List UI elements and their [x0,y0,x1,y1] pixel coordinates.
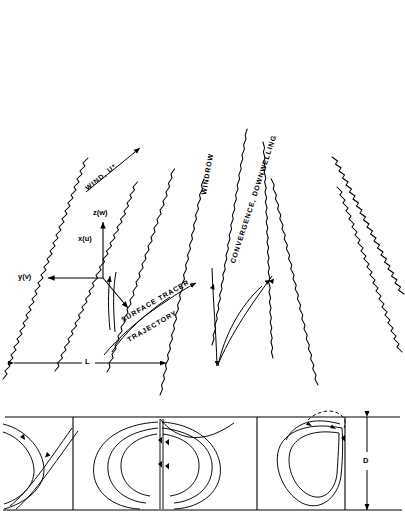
axis-y-label: y(v) [18,272,31,281]
depth-label-D: D [363,456,368,465]
convergence-spindle [212,268,272,366]
near-axis-streamline [109,272,117,332]
cell-right-dashed-top [308,411,345,428]
axis-z-label: z(w) [93,208,108,217]
axis-x-label: x(u) [78,234,92,243]
windrow-streak-1 [3,158,88,379]
diagram-canvas [0,0,405,520]
spindle-arrowheads [210,279,274,291]
cell-left-partial [3,424,78,509]
spacing-label-L: L [85,357,90,366]
windrow-streak-9 [332,157,404,294]
figure-root: WIND, U* WINDROW CONVERGENCE, DOWNWELLIN… [0,0,405,520]
cell-middle-pair [94,419,234,509]
windrow-streak-8 [337,187,402,352]
surface-tracer-trajectory [104,283,196,355]
axis-x-arrow [103,278,128,308]
windrow-streak-7 [271,179,318,385]
cell-right [277,421,342,506]
windrow-streak-3 [107,169,175,372]
